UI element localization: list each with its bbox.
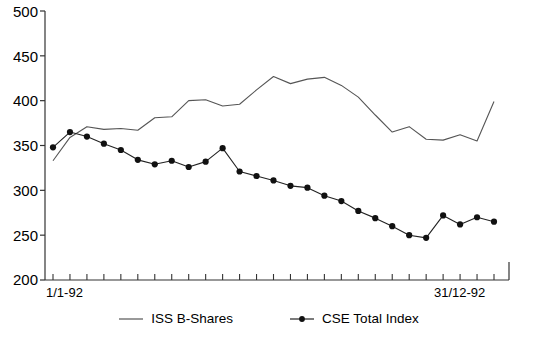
y-tick-label-400: 400: [0, 93, 38, 108]
y-tick-label-300: 300: [0, 183, 38, 198]
data-point: [220, 145, 226, 151]
y-tick-label-350: 350: [0, 138, 38, 153]
chart-series-group: [50, 76, 497, 241]
data-point: [169, 158, 175, 164]
data-point: [423, 235, 429, 241]
y-tick-label-250: 250: [0, 228, 38, 243]
y-tick-label-500: 500: [0, 4, 38, 19]
data-point: [101, 141, 107, 147]
x-axis-start-label: 1/1-92: [46, 286, 83, 300]
data-point: [50, 144, 56, 150]
legend-label-iss-b-shares: ISS B-Shares: [151, 312, 233, 326]
x-axis-end-label: 31/12-92: [434, 286, 485, 300]
data-point: [491, 219, 497, 225]
data-point: [287, 183, 293, 189]
data-point: [440, 212, 446, 218]
data-point: [406, 232, 412, 238]
data-point: [152, 161, 158, 167]
legend-label-cse-total-index: CSE Total Index: [322, 312, 419, 326]
chart-container: 500 450 400 350 300 250 200 1/1-92 31/12…: [0, 0, 537, 345]
data-point: [118, 147, 124, 153]
data-point: [186, 164, 192, 170]
data-point: [474, 214, 480, 220]
chart-legend: ISS B-Shares CSE Total Index: [0, 312, 537, 326]
x-axis-ticks: [53, 274, 494, 280]
data-point: [389, 223, 395, 229]
y-tick-label-450: 450: [0, 49, 38, 64]
data-point: [203, 159, 209, 165]
data-point: [236, 168, 242, 174]
data-point: [270, 177, 276, 183]
data-point: [372, 215, 378, 221]
y-tick-label-200: 200: [0, 272, 38, 287]
data-point: [84, 133, 90, 139]
legend-item-cse-total-index[interactable]: CSE Total Index: [289, 312, 419, 326]
data-point: [67, 129, 73, 135]
data-point: [253, 173, 259, 179]
legend-line-dot-swatch-icon: [289, 313, 315, 325]
legend-line-swatch-icon: [118, 313, 144, 325]
data-point: [457, 221, 463, 227]
data-point: [355, 208, 361, 214]
data-point: [135, 157, 141, 163]
y-axis-ticks: [40, 11, 45, 280]
data-point: [321, 193, 327, 199]
chart-axes: [45, 11, 509, 280]
data-point: [304, 185, 310, 191]
legend-item-iss-b-shares[interactable]: ISS B-Shares: [118, 312, 233, 326]
data-point: [338, 198, 344, 204]
